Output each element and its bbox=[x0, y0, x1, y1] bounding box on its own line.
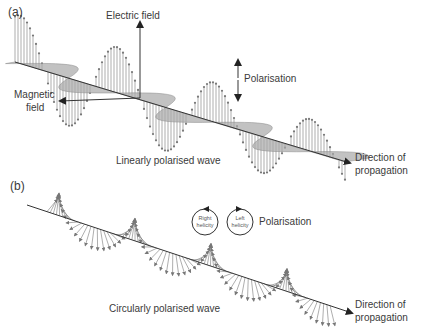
electric-vector-head bbox=[167, 150, 169, 152]
electric-vector-head bbox=[233, 117, 235, 119]
electric-vector-head bbox=[305, 118, 307, 120]
rotating-field-vector bbox=[100, 229, 103, 250]
electric-vector-head bbox=[59, 115, 61, 117]
electric-vector-head bbox=[110, 47, 112, 49]
electric-vector-head bbox=[176, 141, 178, 143]
electric-vector-head bbox=[320, 128, 322, 130]
electric-vector-head bbox=[254, 166, 256, 168]
electric-vector-head bbox=[272, 166, 274, 168]
electric-vector-head bbox=[104, 55, 106, 57]
electric-vector-head bbox=[206, 83, 208, 85]
electric-vector-head bbox=[338, 166, 340, 168]
rotating-field-vector bbox=[310, 301, 317, 319]
rotating-field-vector bbox=[135, 224, 141, 243]
electric-vector-head bbox=[161, 148, 163, 150]
electric-vector-head bbox=[248, 156, 250, 158]
rotating-field-vector bbox=[91, 227, 94, 248]
electric-vector-head bbox=[107, 51, 109, 53]
electric-vector-head bbox=[215, 83, 217, 85]
rotating-field-vector bbox=[287, 273, 292, 293]
electric-vector-head bbox=[302, 120, 304, 122]
electric-vector-head bbox=[158, 144, 160, 146]
electric-vector-head bbox=[311, 119, 313, 121]
electric-vector-head bbox=[152, 133, 154, 135]
electric-vector-head bbox=[245, 149, 247, 151]
electric-vector-head bbox=[146, 117, 148, 119]
electric-vector-head bbox=[251, 161, 253, 163]
rotating-field-vector bbox=[145, 248, 157, 253]
electric-vector-head bbox=[269, 169, 271, 171]
electric-vector-head bbox=[185, 123, 187, 125]
electric-vector-head bbox=[98, 68, 100, 70]
electric-vector-head bbox=[242, 141, 244, 143]
electric-vector-head bbox=[95, 76, 97, 78]
electric-vector-head bbox=[164, 149, 166, 151]
electric-vector-head bbox=[227, 102, 229, 104]
rotating-field-vector bbox=[66, 222, 78, 223]
panel-label-a: (a) bbox=[8, 6, 23, 18]
electric-vector-head bbox=[65, 123, 67, 125]
electric-vector-head bbox=[35, 43, 37, 45]
electric-field-label: Electric field bbox=[106, 10, 160, 22]
rotating-field-vector bbox=[255, 280, 260, 300]
electric-vector-head bbox=[53, 101, 55, 103]
rotating-field-vector bbox=[322, 303, 323, 325]
magnetic-field-label-line1: Magnetic bbox=[14, 89, 55, 101]
right-helicity-label-line1: Right bbox=[194, 215, 216, 221]
electric-vector-head bbox=[83, 107, 85, 109]
electric-vector-head bbox=[155, 139, 157, 141]
electric-vector-head bbox=[191, 109, 193, 111]
direction-label-b-line1: Direction of bbox=[355, 299, 406, 311]
electric-vector-head bbox=[56, 109, 58, 111]
rotating-field-vector bbox=[247, 278, 248, 300]
electric-vector-head bbox=[23, 17, 25, 19]
rotating-field-vector bbox=[280, 271, 287, 289]
electric-vector-head bbox=[326, 140, 328, 142]
electric-vector-head bbox=[116, 46, 118, 48]
rotating-field-vector bbox=[221, 273, 233, 278]
electric-vector-head bbox=[275, 162, 277, 164]
electric-vector-head bbox=[71, 124, 73, 126]
polarisation-label-a: Polarisation bbox=[244, 73, 296, 85]
electric-vector-head bbox=[212, 81, 214, 83]
electric-vector-head bbox=[68, 125, 70, 127]
panel-label-b: (b) bbox=[10, 180, 25, 192]
electric-vector-head bbox=[38, 52, 40, 54]
electric-vector-head bbox=[29, 27, 31, 29]
electric-vector-head bbox=[263, 172, 265, 174]
propagation-axis-a bbox=[15, 62, 350, 163]
electric-vector-head bbox=[74, 122, 76, 124]
left-helicity-label-line2: helicity bbox=[229, 222, 251, 228]
electric-vector-head bbox=[290, 135, 292, 137]
rotating-field-vector bbox=[241, 277, 245, 298]
rotating-field-vector bbox=[132, 218, 135, 239]
rotating-field-vector bbox=[176, 254, 179, 275]
electric-vector-head bbox=[194, 102, 196, 104]
left-helicity-label-line1: Left bbox=[229, 215, 251, 221]
electric-vector-head bbox=[209, 81, 211, 83]
electric-vector-head bbox=[101, 61, 103, 63]
electric-vector-head bbox=[137, 89, 139, 91]
rotating-field-vector bbox=[316, 302, 320, 323]
electric-vector-head bbox=[308, 118, 310, 120]
electric-vector-head bbox=[260, 171, 262, 173]
electric-vector-head bbox=[170, 148, 172, 150]
electric-vector-head bbox=[125, 57, 127, 59]
rotating-field-vector bbox=[296, 298, 308, 302]
electric-vector-head bbox=[341, 173, 343, 175]
caption-b: Circularly polarised wave bbox=[109, 303, 220, 315]
rotating-field-vector bbox=[80, 225, 88, 241]
electric-vector-head bbox=[182, 130, 184, 132]
electric-vector-head bbox=[113, 46, 115, 48]
direction-label-a-line1: Direction of bbox=[355, 152, 406, 164]
electric-vector-head bbox=[218, 85, 220, 87]
rotating-field-vector bbox=[104, 230, 110, 249]
rotating-field-vector bbox=[155, 250, 164, 265]
electric-vector-head bbox=[80, 113, 82, 115]
rotating-field-vector bbox=[70, 223, 82, 229]
electric-vector-head bbox=[293, 130, 295, 132]
electric-vector-head bbox=[62, 120, 64, 122]
electric-vector-head bbox=[314, 121, 316, 123]
electric-vector-head bbox=[173, 145, 175, 147]
rotating-field-vector bbox=[179, 255, 185, 274]
